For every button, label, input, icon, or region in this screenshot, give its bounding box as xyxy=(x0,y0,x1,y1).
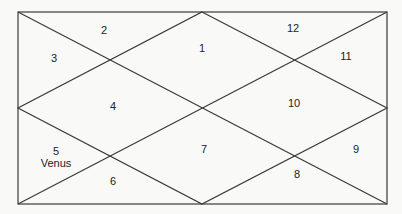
house-1: 1 xyxy=(199,42,205,54)
house-7: 7 xyxy=(201,143,207,155)
house-number: 10 xyxy=(288,97,300,109)
house-number: 12 xyxy=(287,22,299,34)
house-number: 9 xyxy=(353,143,359,155)
house-number: 6 xyxy=(110,175,116,187)
house-number: 4 xyxy=(110,100,116,112)
house-11: 11 xyxy=(340,50,351,62)
horoscope-chart-frame xyxy=(0,0,402,214)
house-5: 5 Venus xyxy=(41,145,72,169)
house-2: 2 xyxy=(101,24,107,36)
house-number: 5 xyxy=(41,145,72,157)
house-6: 6 xyxy=(110,175,116,187)
house-3: 3 xyxy=(51,52,57,64)
house-number: 11 xyxy=(340,50,351,62)
house-number: 3 xyxy=(51,52,57,64)
house-number: 2 xyxy=(101,24,107,36)
house-9: 9 xyxy=(353,143,359,155)
house-12: 12 xyxy=(287,22,299,34)
house-number: 1 xyxy=(199,42,205,54)
house-number: 7 xyxy=(201,143,207,155)
planet-venus: Venus xyxy=(41,157,72,169)
house-4: 4 xyxy=(110,100,116,112)
house-8: 8 xyxy=(294,168,300,180)
house-10: 10 xyxy=(288,97,300,109)
house-number: 8 xyxy=(294,168,300,180)
